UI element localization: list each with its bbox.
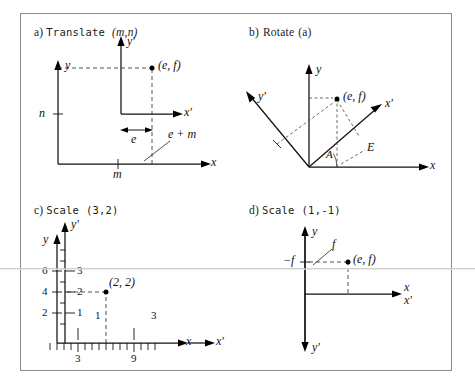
scanline-artifact-lower [0,269,475,270]
label-axis-x: x [186,334,191,349]
panel-scale-1-neg1: d)Scale(1,-1) y y' x x' −f [237,193,453,372]
dash-projection-xprime [337,100,359,136]
axis-yprime-arrow [61,222,68,232]
point-22-marker [104,290,109,295]
label-callout-f: f [332,237,335,252]
label-point-ef: (e, f) [158,58,181,73]
label-axis-x-prime: x' [404,293,412,308]
label-point-22: (2, 2) [109,275,135,290]
axis-yprime-line [251,97,309,167]
label-point-ef: (e, f) [353,252,376,267]
label-axis-x-prime: x' [184,105,192,120]
label-axis-y: y [312,224,317,239]
label-point-ef: (e, f) [343,89,366,104]
axis-y-arrow [54,60,61,70]
label-axis-x-prime: x' [216,334,224,349]
label-axis-y: y [316,62,321,77]
axis-x-arrow [201,160,211,167]
label-axis-y-prime: y' [258,89,266,104]
label-yprime-tick-1: 1 [77,306,83,318]
figure-border: a)Translate(m,n) [20,13,452,371]
label-tick-n: n [39,106,45,121]
axis-xprime-arrow [205,339,215,346]
label-callout-e-plus-m: e + m [168,127,196,142]
label-axis-y: y [43,232,48,247]
axis-xprime-arrow [173,110,183,117]
label-x-tick-3: 3 [75,352,81,364]
label-axis-y-prime: y' [71,217,79,232]
callout-E-leader [341,150,365,164]
label-yprime-tick-2: 2 [77,285,83,297]
label-y-tick-2: 2 [42,306,48,318]
label-tick-m: m [113,167,122,182]
label-axis-x: x [211,155,216,170]
panel-scale-3-2: c)Scale(3,2) [21,193,237,372]
point-ef-marker [335,97,340,102]
label-callout-E: E [367,140,374,155]
label-yprime-tick-3: 3 [77,264,83,276]
label-axis-y-prime: y' [312,340,320,355]
label-y-tick-4: 4 [42,285,48,297]
label-axis-y-prime: y' [127,34,135,49]
axis-yprime-arrow [301,342,308,352]
label-xprime-tick-3: 3 [151,309,157,321]
axis-xprime-line [309,109,376,167]
point-ef-marker [150,66,155,71]
label-y-tick-6: 6 [42,264,48,276]
tick-yprime-projection [273,140,281,148]
label-axis-y: y [65,58,70,73]
axis-xprime-arrow [371,104,383,113]
label-measure-e: e [131,132,136,147]
axis-x-arrow [392,290,402,297]
label-angle-A: A [326,148,333,160]
label-tick-neg-f: −f [283,253,294,268]
axis-y-arrow [53,234,60,244]
dash-projection-yprime [277,100,337,144]
panel-d-graphic [237,193,453,372]
measure-e-arrow-left [120,127,128,133]
panel-translate: a)Translate(m,n) [21,14,237,193]
axis-x-arrow [419,163,429,170]
callout-f-leader [313,249,332,265]
callout-em-leader [144,141,170,161]
point-ef-marker [346,260,351,265]
axis-y-arrow [305,64,312,74]
angle-arc-A [334,154,338,168]
axis-yprime-arrow [117,36,124,46]
label-x-tick-9: 9 [131,352,137,364]
label-axis-x-prime: x' [385,96,393,111]
label-xprime-tick-1: 1 [95,309,101,321]
label-axis-x: x [430,158,435,173]
panel-rotate: b)Rotate(a) [237,14,453,193]
